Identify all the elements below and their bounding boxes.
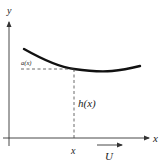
diagram-canvas: y x a(x) h(x) x U	[0, 0, 165, 167]
flow-label: U	[105, 150, 114, 162]
surface-curve	[24, 49, 140, 71]
x-tick-label: x	[70, 145, 76, 156]
height-label: h(x)	[78, 97, 96, 110]
y-axis-label: y	[6, 5, 12, 16]
curve-point-label: a(x)	[21, 59, 31, 67]
x-axis-label: x	[152, 132, 158, 144]
